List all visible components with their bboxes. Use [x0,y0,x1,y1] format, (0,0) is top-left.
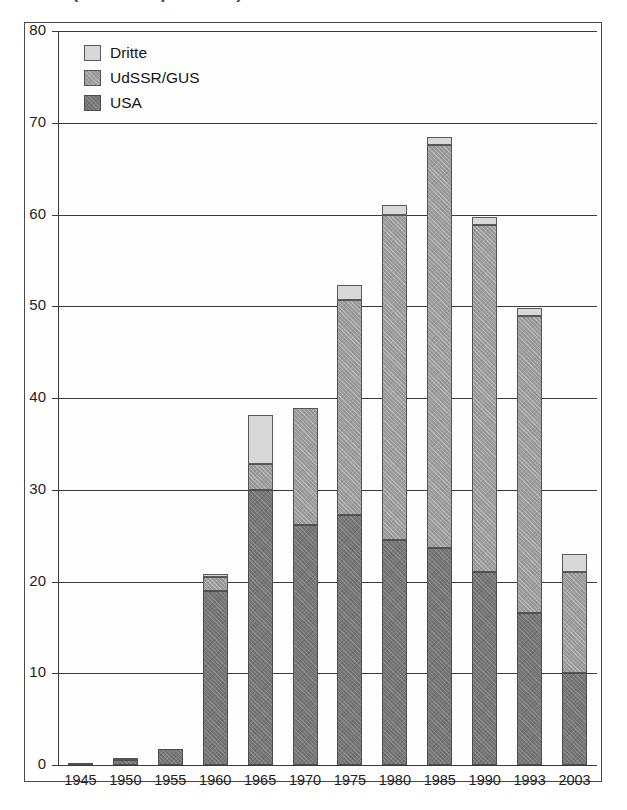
page-title: (Weltweit pro Jahr) [72,0,243,3]
y-tick-60 [52,215,59,216]
bar-segment-1980-usa[interactable] [382,540,407,765]
y-tick-80 [52,31,59,32]
bar-segment-1975-dritte[interactable] [337,285,362,300]
y-axis-label-60: 60 [0,205,46,222]
y-tick-40 [52,398,59,399]
x-axis-label-1965: 1965 [238,772,283,788]
x-axis-label-1975: 1975 [328,772,373,788]
x-axis-label-1945: 1945 [58,772,103,788]
bar-segment-1950-udssr[interactable] [113,758,138,760]
x-axis-label-1950: 1950 [103,772,148,788]
y-tick-10 [52,673,59,674]
bar-segment-1993-udssr[interactable] [517,316,542,612]
legend-label-usa: USA [110,94,142,112]
x-axis-label-1960: 1960 [193,772,238,788]
y-tick-70 [52,123,59,124]
bar-segment-1993-usa[interactable] [517,613,542,765]
bar-2003[interactable] [562,31,587,765]
y-axis-label-10: 10 [0,663,46,680]
bar-segment-1965-dritte[interactable] [248,415,273,465]
x-axis-label-1955: 1955 [148,772,193,788]
bar-1980[interactable] [382,31,407,765]
bar-1960[interactable] [203,31,228,765]
bar-1945[interactable] [68,31,93,765]
chart-title-strip: (Weltweit pro Jahr) [0,0,627,12]
x-axis-label-1980: 1980 [372,772,417,788]
bar-segment-1990-dritte[interactable] [472,217,497,224]
legend-item-dritte: Dritte [84,44,200,62]
bar-segment-1970-udssr[interactable] [293,408,318,525]
x-axis-label-2003: 2003 [552,772,597,788]
bar-segment-1965-usa[interactable] [248,490,273,765]
y-axis-label-70: 70 [0,113,46,130]
bar-segment-1980-dritte[interactable] [382,205,407,214]
bar-segment-1975-usa[interactable] [337,515,362,765]
legend-swatch-usa [84,95,101,111]
legend-item-udssr-gus: UdSSR/GUS [84,69,200,87]
bar-segment-1960-dritte[interactable] [203,574,228,577]
bar-1970[interactable] [293,31,318,765]
bar-segment-1985-dritte[interactable] [427,137,452,145]
chart-legend: Dritte UdSSR/GUS USA [84,44,200,112]
y-tick-0 [52,765,59,766]
bar-1993[interactable] [517,31,542,765]
bar-segment-1945-usa[interactable] [68,763,93,765]
bar-segment-2003-udssr[interactable] [562,572,587,673]
legend-label-udssr-gus: UdSSR/GUS [110,69,200,87]
y-axis-label-20: 20 [0,572,46,589]
chart-page: (Weltweit pro Jahr) 01020304050607080194… [0,0,627,810]
y-tick-20 [52,582,59,583]
bar-1985[interactable] [427,31,452,765]
bar-1965[interactable] [248,31,273,765]
bar-segment-1990-udssr[interactable] [472,225,497,573]
bar-1975[interactable] [337,31,362,765]
bar-segment-1993-dritte[interactable] [517,308,542,316]
bar-segment-2003-dritte[interactable] [562,554,587,572]
bar-segment-1985-udssr[interactable] [427,145,452,549]
bar-1955[interactable] [158,31,183,765]
bar-segment-1985-usa[interactable] [427,548,452,765]
bar-segment-1980-udssr[interactable] [382,215,407,541]
y-axis-label-30: 30 [0,480,46,497]
x-axis-label-1985: 1985 [417,772,462,788]
y-axis-label-40: 40 [0,388,46,405]
bar-segment-1965-udssr[interactable] [248,464,273,490]
gridline-0 [58,765,597,766]
plot-area [58,31,597,765]
x-axis-label-1990: 1990 [462,772,507,788]
bar-segment-1960-usa[interactable] [203,591,228,765]
y-axis-label-0: 0 [0,755,46,772]
bar-1990[interactable] [472,31,497,765]
bar-segment-2003-usa[interactable] [562,673,587,765]
bar-1950[interactable] [113,31,138,765]
y-axis-label-80: 80 [0,21,46,38]
legend-swatch-udssr-gus [84,70,101,86]
bar-segment-1990-usa[interactable] [472,572,497,765]
bar-segment-1970-usa[interactable] [293,525,318,765]
bar-segment-1960-udssr[interactable] [203,577,228,591]
y-tick-30 [52,490,59,491]
bar-segment-1950-usa[interactable] [113,760,138,765]
legend-label-dritte: Dritte [110,44,147,62]
legend-swatch-dritte [84,45,101,61]
x-axis-label-1970: 1970 [283,772,328,788]
bar-segment-1955-usa[interactable] [158,749,183,765]
y-axis-label-50: 50 [0,296,46,313]
bar-segment-1975-udssr[interactable] [337,300,362,515]
x-axis-label-1993: 1993 [507,772,552,788]
y-tick-50 [52,306,59,307]
legend-item-usa: USA [84,94,200,112]
